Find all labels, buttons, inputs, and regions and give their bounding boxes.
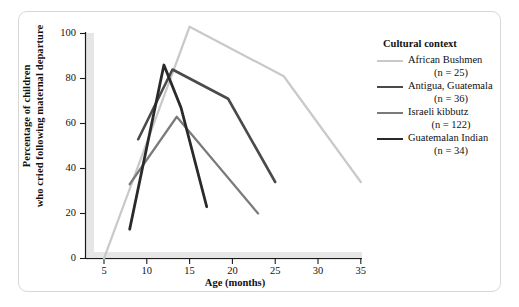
series-line-guatemalan-indian [130,65,207,229]
series-line-african-bushmen [104,27,361,259]
legend-swatch-israeli-kibbutz [377,112,403,114]
y-axis-shadow [86,33,94,259]
x-tick-label-10: 10 [135,265,159,276]
legend-n-african-bushmen: (n = 25) [401,66,501,79]
legend-item-guatemalan-indian[interactable]: Guatemalan Indian [377,132,509,144]
chart-figure: 0 20 40 60 80 100 5 10 15 20 25 30 35 Pe… [0,0,519,307]
x-tick-label-25: 25 [263,265,287,276]
legend-n-israeli-kibbutz: (n = 122) [401,118,501,131]
data-series-group [104,27,361,259]
x-tick-label-15: 15 [178,265,202,276]
legend-item-antigua-guatemala[interactable]: Antigua, Guatemala [377,80,509,92]
legend-label-guatemalan-indian: Guatemalan Indian [408,132,488,144]
legend-swatch-guatemalan-indian [377,138,403,140]
x-tick-label-30: 30 [306,265,330,276]
y-axis-title-line1: Percentage of children [20,16,33,216]
y-tick-marks [80,34,86,259]
x-tick-label-5: 5 [92,265,116,276]
legend: Cultural context African Bushmen (n = 25… [377,38,509,157]
legend-title: Cultural context [383,38,509,49]
y-tick-label-0: 0 [50,252,76,263]
y-axis-title-line2: who cried following maternal departure [33,16,46,216]
legend-label-antigua-guatemala: Antigua, Guatemala [408,80,493,92]
legend-swatch-african-bushmen [377,60,403,62]
legend-n-guatemalan-indian: (n = 34) [401,144,501,157]
legend-label-israeli-kibbutz: Israeli kibbutz [408,106,468,118]
legend-item-israeli-kibbutz[interactable]: Israeli kibbutz [377,106,509,118]
legend-item-african-bushmen[interactable]: African Bushmen [377,54,509,66]
legend-label-african-bushmen: African Bushmen [408,54,482,66]
legend-swatch-antigua-guatemala [377,86,403,88]
x-tick-label-35: 35 [349,265,373,276]
y-axis-title: Percentage of children who cried followi… [20,16,60,216]
x-tick-label-20: 20 [220,265,244,276]
legend-n-antigua-guatemala: (n = 36) [401,92,501,105]
x-axis-title: Age (months) [100,277,370,288]
